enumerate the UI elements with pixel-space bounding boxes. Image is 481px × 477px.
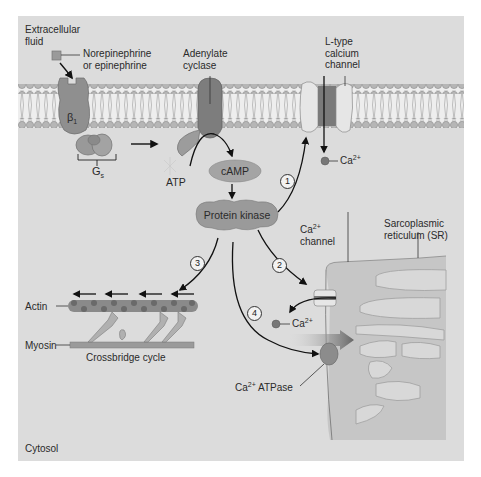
l-type-channel-label: L-type calcium channel [325, 36, 360, 71]
step-4-badge: 4 [247, 306, 262, 321]
actin-label: Actin [25, 301, 47, 313]
gs-protein-icon [76, 134, 116, 166]
sr-calcium-ion-label: Ca2+ [292, 318, 313, 330]
step-1-badge: 1 [280, 174, 295, 189]
gs-label: Gs [92, 166, 104, 182]
step-3-badge: 3 [190, 256, 205, 271]
extracellular-label: Extracellular fluid [25, 24, 80, 47]
ligand-label: Norepinephrine or epinephrine [83, 48, 151, 71]
l-type-channel-icon [300, 76, 353, 152]
step2-arrow [258, 230, 306, 284]
step-2-badge: 2 [272, 258, 287, 273]
adenylate-cyclase-label: Adenylate cyclase [183, 48, 227, 71]
ligand-icon [52, 51, 80, 78]
crossbridge-label: Crossbridge cycle [86, 352, 165, 364]
beta1-label: β1 [67, 112, 77, 128]
calcium-ion-icon [321, 157, 338, 165]
atp-glow-icon [164, 157, 176, 175]
cytosol-label: Cytosol [25, 443, 58, 455]
myosin-label: Myosin [25, 340, 57, 352]
actin-filament-icon [56, 300, 198, 312]
sarcoplasmic-reticulum-icon [326, 212, 446, 440]
ca-atpase-label: Ca2+ ATPase [235, 382, 293, 394]
myosin-filament-icon [56, 312, 194, 348]
ca-channel-label: Ca2+ channel [300, 224, 335, 247]
camp-label: cAMP [209, 165, 261, 177]
protein-kinase-label: Protein kinase [196, 209, 278, 221]
atp-label: ATP [166, 177, 186, 189]
calcium-ion-label: Ca2+ [340, 155, 361, 167]
sr-label: Sarcoplasmic reticulum (SR) [384, 218, 448, 241]
